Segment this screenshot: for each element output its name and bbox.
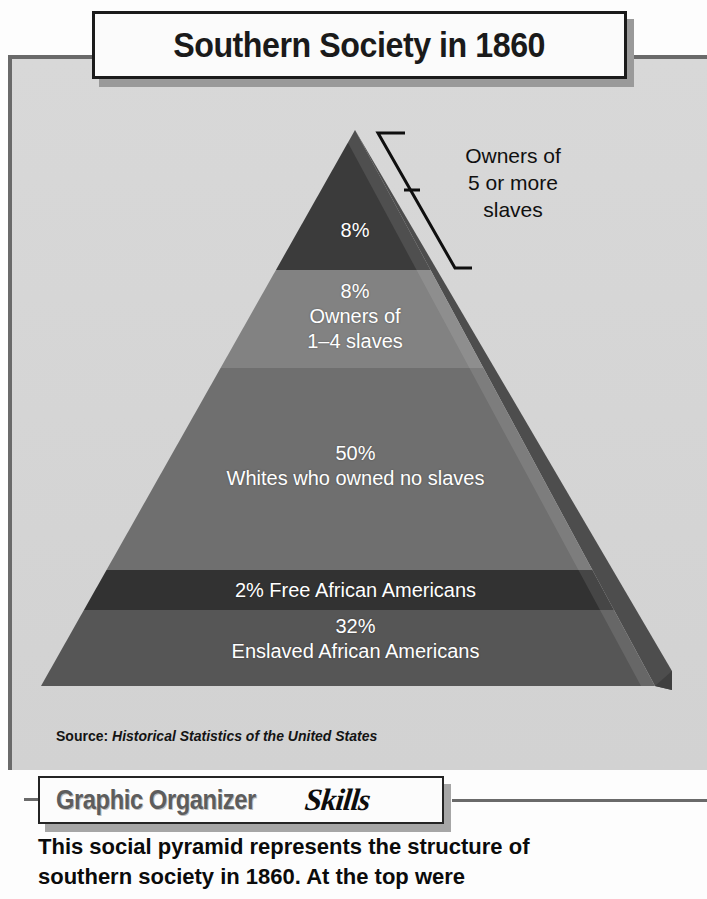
graphic-organizer-banner: Graphic Organizer Skills [38,776,444,824]
pyramid-tier-4-label: 2% Free African Americans [163,578,548,603]
pyramid-tier-3-label: 50% Whites who owned no slaves [158,441,553,491]
page-title: Southern Society in 1860 [174,25,546,65]
pyramid-tier-5-label: 32% Enslaved African Americans [148,614,563,664]
banner-skills-label: Skills [303,782,371,818]
banner-rule [452,799,707,802]
banner-main-label: Graphic Organizer [56,785,256,816]
graphic-organizer-page: 8% 8% Owners of 1–4 slaves 50% Whites wh… [0,0,707,899]
title-plate: Southern Society in 1860 [92,11,627,79]
bracket-annotation-label: Owners of 5 or more slaves [418,142,608,223]
body-paragraph: This social pyramid represents the struc… [38,832,678,892]
source-prefix: Source: [56,728,108,744]
source-line: Source: Historical Statistics of the Uni… [56,728,377,744]
source-title: Historical Statistics of the United Stat… [108,728,377,744]
pyramid-tier-2-label: 8% Owners of 1–4 slaves [245,279,465,354]
social-pyramid-diagram: 8% 8% Owners of 1–4 slaves 50% Whites wh… [0,0,707,730]
